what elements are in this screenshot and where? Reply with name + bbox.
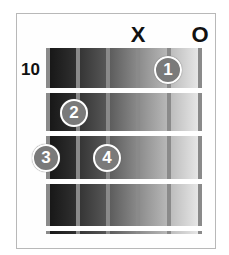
string-1 [46, 48, 50, 234]
fret-line-3 [46, 179, 202, 184]
string-4 [136, 48, 140, 234]
start-fret-label: 10 [21, 60, 40, 80]
open-string-marker: O [190, 22, 210, 48]
fret-line-2 [46, 131, 202, 136]
string-3 [106, 48, 110, 234]
string-6 [198, 48, 202, 234]
fret-line-4 [46, 226, 202, 231]
fret-line-1 [46, 88, 202, 93]
string-2 [76, 48, 80, 234]
finger-dot-4: 4 [93, 144, 121, 172]
muted-string-marker: X [128, 22, 148, 48]
finger-dot-3: 3 [32, 144, 60, 172]
finger-dot-1: 1 [154, 56, 182, 84]
finger-dot-2: 2 [60, 99, 88, 127]
